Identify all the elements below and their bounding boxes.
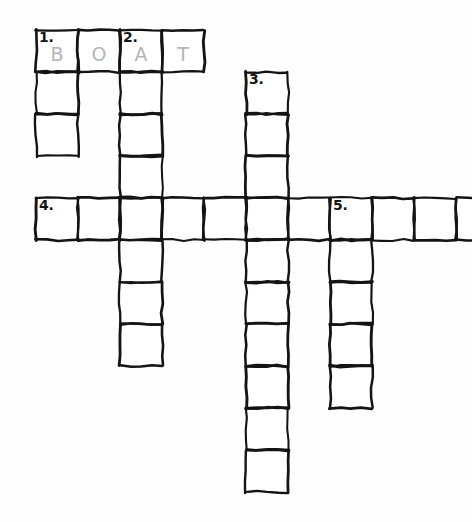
cell-clue-number: 5.: [333, 198, 347, 213]
crossword-cell[interactable]: [246, 282, 288, 324]
crossword-cell[interactable]: 5.: [330, 198, 372, 240]
crossword-cell[interactable]: [330, 366, 372, 408]
crossword-cell[interactable]: [120, 240, 162, 282]
crossword-cell[interactable]: [246, 450, 288, 492]
crossword-cell[interactable]: T: [162, 30, 204, 72]
crossword-cell[interactable]: [288, 198, 330, 240]
crossword-cell[interactable]: [456, 198, 472, 240]
crossword-cell[interactable]: [204, 198, 246, 240]
crossword-puzzle: 1.BO2.AT3.4.5.: [0, 0, 472, 522]
cell-clue-number: 4.: [39, 198, 53, 213]
cell-letter: A: [120, 30, 162, 72]
crossword-cell[interactable]: [120, 198, 162, 240]
crossword-cell[interactable]: [246, 156, 288, 198]
crossword-cell[interactable]: [246, 114, 288, 156]
crossword-cell[interactable]: [330, 240, 372, 282]
crossword-grid[interactable]: 1.BO2.AT3.4.5.: [0, 0, 472, 522]
crossword-cell[interactable]: [162, 198, 204, 240]
cell-letter: B: [36, 30, 78, 72]
crossword-cell[interactable]: [36, 72, 78, 114]
crossword-cell[interactable]: [246, 324, 288, 366]
crossword-cell[interactable]: [78, 198, 120, 240]
crossword-cell[interactable]: 3.: [246, 72, 288, 114]
crossword-cell[interactable]: 2.A: [120, 30, 162, 72]
crossword-cell[interactable]: [246, 198, 288, 240]
crossword-cell[interactable]: [120, 324, 162, 366]
crossword-cell[interactable]: [120, 156, 162, 198]
cell-clue-number: 3.: [249, 72, 263, 87]
crossword-cell[interactable]: [414, 198, 456, 240]
cell-letter: T: [162, 30, 204, 72]
crossword-cell[interactable]: [330, 282, 372, 324]
crossword-cell[interactable]: [120, 72, 162, 114]
crossword-cell[interactable]: [120, 282, 162, 324]
crossword-cell[interactable]: [120, 114, 162, 156]
crossword-cell[interactable]: [246, 408, 288, 450]
crossword-cell[interactable]: 1.B: [36, 30, 78, 72]
crossword-cell[interactable]: [36, 114, 78, 156]
crossword-cell[interactable]: [246, 366, 288, 408]
crossword-cell[interactable]: O: [78, 30, 120, 72]
crossword-cell[interactable]: [246, 240, 288, 282]
crossword-cell[interactable]: [372, 198, 414, 240]
crossword-cell[interactable]: 4.: [36, 198, 78, 240]
crossword-cell[interactable]: [330, 324, 372, 366]
cell-letter: O: [78, 30, 120, 72]
